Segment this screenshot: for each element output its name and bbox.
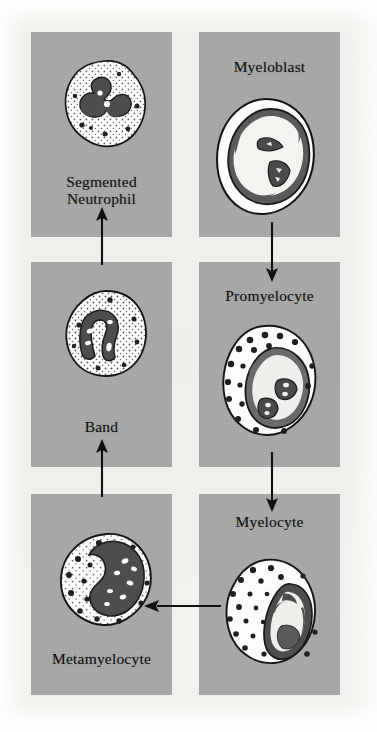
cell-drawing-myelocyte (219, 556, 321, 668)
cell-drawing-segmented-neutrophil (61, 58, 149, 150)
label-myelocyte: Myelocyte (199, 513, 340, 530)
label-band: Band (31, 418, 172, 435)
arrow-myelocyte-to-metamyelocyte (141, 598, 221, 614)
arrow-myeloblast-to-promyelocyte (264, 222, 280, 284)
arrow-band-to-segmented-neutrophil (94, 205, 110, 265)
cell-drawing-promyelocyte (216, 322, 320, 440)
arrow-promyelocyte-to-myelocyte (264, 452, 280, 514)
cell-drawing-myeloblast (212, 96, 318, 218)
cell-drawing-metamyelocyte (57, 531, 155, 629)
label-myeloblast: Myeloblast (199, 58, 340, 75)
cell-drawing-band (62, 289, 150, 379)
diagram-canvas: Segmented Neutrophil Myeloblast Band Pro… (0, 0, 377, 732)
label-promyelocyte: Promyelocyte (199, 287, 340, 304)
arrow-metamyelocyte-to-band (94, 437, 110, 497)
label-metamyelocyte: Metamyelocyte (26, 650, 177, 667)
label-segmented-neutrophil: Segmented Neutrophil (31, 173, 172, 207)
